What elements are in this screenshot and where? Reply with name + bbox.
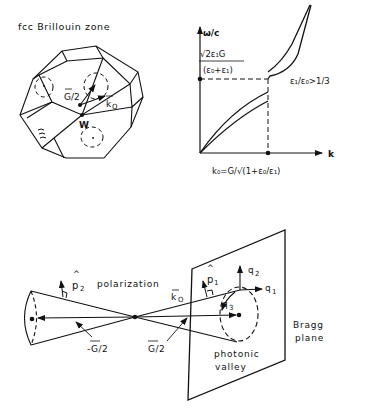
brillouin-zone-panel: fcc Brillouin zone xyxy=(18,21,143,158)
svg-text:O: O xyxy=(112,103,118,111)
bragg-plane-label: Bragg plane xyxy=(293,320,324,343)
left-cone-center-dot xyxy=(30,317,35,322)
w-point-dot xyxy=(80,113,84,117)
g-half-vector xyxy=(135,315,236,317)
gap-frequency-dot xyxy=(198,77,203,82)
photonic-valley-label: photonic valley xyxy=(214,349,260,372)
gap-numerator: √2ε₁G xyxy=(200,49,225,59)
svg-text:q: q xyxy=(248,265,254,275)
neg-g-half-vector xyxy=(38,317,135,318)
valley-circle-left xyxy=(35,77,53,97)
valley-circle-bottom xyxy=(81,127,103,147)
svg-text:q: q xyxy=(265,283,271,293)
condition-label: ε₁/ε₀>1/3 xyxy=(290,76,330,86)
svg-text:^: ^ xyxy=(207,264,214,273)
svg-text:q: q xyxy=(222,299,228,309)
bragg-plane xyxy=(188,230,285,400)
svg-text:photonic: photonic xyxy=(214,349,260,359)
k0-dot xyxy=(266,151,271,156)
svg-text:2: 2 xyxy=(255,270,259,278)
neg-g-half-label: -G/2 xyxy=(87,341,108,354)
photonic-valley-panel: ^ p 2 polarization k O -G/2 G/2 ^ p 1 q … xyxy=(25,230,324,400)
p2-vector xyxy=(61,281,67,298)
valley-center-dot xyxy=(43,85,45,87)
p2-label: ^ p 2 xyxy=(72,270,84,293)
q1-label: q 1 xyxy=(265,283,276,296)
y-axis-label: ω/c xyxy=(203,28,219,38)
lower-branch-2 xyxy=(200,101,268,153)
bz-title: fcc Brillouin zone xyxy=(18,21,110,32)
gap-denominator: (ε₀+ε₁) xyxy=(203,65,233,75)
q2-label: q 2 xyxy=(248,265,259,278)
svg-text:k: k xyxy=(171,292,177,302)
svg-text:-G/2: -G/2 xyxy=(87,344,108,354)
q3-label: q 3 xyxy=(222,299,233,312)
svg-text:^: ^ xyxy=(73,270,80,279)
valley-center-dot xyxy=(237,313,242,318)
gap-frequency-label: √2ε₁G (ε₀+ε₁) xyxy=(199,49,244,75)
svg-text:valley: valley xyxy=(215,362,247,372)
edge-valley-marks xyxy=(38,129,46,138)
svg-text:1: 1 xyxy=(272,288,276,296)
svg-text:plane: plane xyxy=(295,333,324,343)
svg-text:Bragg: Bragg xyxy=(293,320,324,330)
w-point-label: W xyxy=(79,120,89,130)
p1-label: ^ p 1 xyxy=(207,264,218,287)
svg-text:3: 3 xyxy=(229,304,233,312)
figure-canvas: fcc Brillouin zone xyxy=(0,0,368,418)
q1-vector xyxy=(240,289,262,290)
upper-branch-1 xyxy=(268,5,310,72)
k0-formula: k₀=G/√(1+ε₀/ε₁) xyxy=(212,166,280,176)
valley-center-dot xyxy=(92,137,94,139)
svg-text:p: p xyxy=(207,274,213,285)
svg-text:p: p xyxy=(72,280,78,291)
bz-k0-label: k O xyxy=(106,96,118,111)
dispersion-chart-panel: ω/c k √2ε₁G (ε₀+ε₁) ε₁/ε₀>1/3 k₀=G/√(1+ε… xyxy=(198,5,335,176)
x-axis-label: k xyxy=(328,149,335,159)
svg-text:G/2: G/2 xyxy=(148,344,165,354)
svg-text:2: 2 xyxy=(80,285,84,293)
svg-text:O: O xyxy=(178,296,184,304)
k0-label: k O xyxy=(171,290,184,304)
svg-text:G/2: G/2 xyxy=(64,92,80,102)
svg-text:1: 1 xyxy=(214,279,218,287)
g-half-label: G/2 xyxy=(148,341,165,354)
bz-g-half-label: G/2 xyxy=(64,89,80,102)
polarization-label: polarization xyxy=(97,279,160,289)
